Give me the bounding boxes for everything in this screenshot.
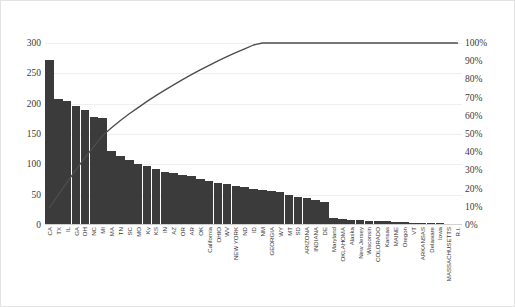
y-axis-right-tick: 100% [465,38,487,48]
x-axis-label: WV [223,227,232,237]
x-axis-label: WY [276,227,285,237]
x-axis-label-text: MI [99,227,106,234]
x-axis-label: OKLAHOMA [338,227,347,262]
cumulative-line-path [49,43,457,208]
x-axis-label-text: VT [410,227,417,235]
x-axis-label: MAINE [391,227,400,246]
y-axis-right-tick: 10% [465,202,482,212]
x-axis-label-text: Alaska [348,227,355,245]
x-axis-label: SC [125,227,134,235]
x-axis-label-text: MA [108,227,115,236]
x-axis-label-text: ARIZONA [303,227,310,254]
x-axis-label-text: COLORADO [374,227,381,262]
x-axis-label-text: KS [152,227,159,235]
x-axis-label-text: Wisconsin [365,227,372,255]
x-axis-label-text: IL [64,227,71,232]
y-axis-right-tick: 70% [465,93,482,103]
x-axis-label-text: MO [135,227,142,237]
x-axis-label: NC [89,227,98,236]
y-axis-left: 050100150200250300 [1,43,41,225]
x-axis-label: OK [196,227,205,236]
x-axis-label: AZ [169,227,178,235]
y-axis-right-tick: 30% [465,165,482,175]
x-axis-label-text: OHIO [215,227,222,243]
x-axis-label-text: New Jersey [357,227,364,259]
plot-area [45,43,462,225]
y-axis-left-tick: 250 [27,68,41,78]
x-axis-label: MI [98,227,107,234]
y-axis-right-tick: 40% [465,147,482,157]
x-axis-label-text: California [206,227,213,253]
x-axis-label: ND [240,227,249,236]
y-axis-left-tick: 300 [27,38,41,48]
x-axis-label: MA [107,227,116,236]
x-axis-label-text: MAINE [392,227,399,246]
y-axis-left-tick: 0 [36,220,41,230]
x-axis-label: TN [116,227,125,235]
x-axis-label-text: OR [179,227,186,236]
x-axis-label-text: SD [294,227,301,235]
x-axis-label-text: GA [73,227,80,236]
x-axis-label: COLORADO [373,227,382,262]
x-axis-label-text: MASSACHUSETTS [445,227,452,281]
x-axis-label: IL [63,227,72,232]
x-axis-label: SD [294,227,303,235]
x-axis-label: Ky [143,227,152,234]
x-axis-label: MO [134,227,143,237]
x-axis-label: VT [409,227,418,235]
pareto-chart: 050100150200250300 0%10%20%30%40%50%60%7… [0,0,515,307]
x-axis-label: TX [54,227,63,235]
x-axis-label-text: NEW YORK [232,227,239,260]
x-axis-label-text: SC [126,227,133,235]
x-axis-label: GEORGIA [267,227,276,255]
x-axis-label: Wisconsin [365,227,374,255]
x-axis-label: MT [285,227,294,236]
x-axis-label: Iowa [436,227,445,240]
x-axis-label: ID [249,227,258,233]
y-axis-left-tick: 200 [27,99,41,109]
x-axis-label: New Jersey [356,227,365,259]
x-axis-label-text: GEORGIA [268,227,275,255]
x-axis-label-text: WV [223,227,230,237]
x-axis-label-text: OH [81,227,88,236]
cumulative-line-series [45,43,462,225]
x-axis-label-text: TX [55,227,62,235]
x-axis-label: MASSACHUSETTS [444,227,453,281]
x-axis-label-text: INDIANA [312,227,319,252]
x-axis-label-text: OKLAHOMA [339,227,346,262]
y-axis-right-tick: 0% [465,220,478,230]
x-axis-label-text: NC [90,227,97,236]
y-axis-left-tick: 150 [27,129,41,139]
x-axis-label-text: Kansas [383,227,390,247]
x-axis-label-text: AZ [170,227,177,235]
x-axis-label: AR [187,227,196,235]
x-axis-label-text: Maryland [330,227,337,252]
x-axis-label-text: TN [117,227,124,235]
x-axis-label-text: ND [241,227,248,236]
x-axis-label-text: ID [250,227,257,233]
x-axis-label: IN [160,227,169,233]
y-axis-right-tick: 50% [465,129,482,139]
x-axis-label: Kansas [382,227,391,247]
y-axis-left-tick: 50 [32,190,42,200]
x-axis-label: NEW YORK [231,227,240,260]
x-axis-label-text: CA [46,227,53,235]
x-axis-label: KS [152,227,161,235]
x-axis-label-text: OK [197,227,204,236]
y-axis-right-tick: 90% [465,56,482,66]
x-axis-label: OHIO [214,227,223,243]
x-axis-label-text: MT [286,227,293,236]
y-axis-right-tick: 20% [465,184,482,194]
y-axis-right-tick: 80% [465,74,482,84]
x-axis-labels: CATXILGAOHNCMIMATNSCMOKyKSINAZORAROKCali… [45,227,462,307]
x-axis-label: Oregon [400,227,409,247]
x-axis-label: ARKANSAS [418,227,427,260]
x-axis-label-text: Delaware [428,227,435,253]
x-axis-label-text: DE [321,227,328,235]
x-axis-label-text: NM [259,227,266,236]
x-axis-label: INDIANA [311,227,320,252]
x-axis-line [45,224,462,225]
x-axis-label: California [205,227,214,253]
x-axis-label: GA [72,227,81,236]
x-axis-label-text: AR [188,227,195,235]
